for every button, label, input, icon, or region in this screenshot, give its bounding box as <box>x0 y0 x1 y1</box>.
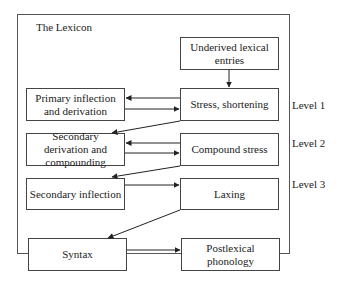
arrow-compound-to-secondary-inflection <box>112 166 180 177</box>
arrow-laxing-to-syntax <box>108 210 180 238</box>
arrow-stress-to-secondary-derivation <box>112 121 180 133</box>
arrows-layer <box>0 0 339 287</box>
